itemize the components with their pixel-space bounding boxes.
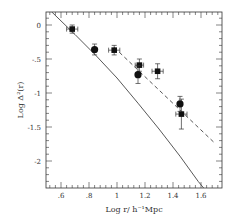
y-tick-label: -1 (34, 90, 41, 98)
x-tick-label: 1 (115, 192, 119, 200)
y-tick-label: -2 (34, 158, 41, 166)
x-tick-label: .8 (86, 192, 93, 200)
plot-frame (46, 12, 222, 188)
dashed-line (114, 47, 213, 142)
y-tick-label: -1.5 (28, 124, 42, 132)
data-point-circle (134, 66, 141, 84)
data-point-square (152, 64, 163, 79)
y-axis-label: Log Δ²(r) (16, 82, 25, 119)
x-tick-label: 1.2 (139, 192, 150, 200)
data-point-circle (91, 44, 98, 55)
x-tick-label: 1.4 (167, 192, 179, 200)
data-point-circle (176, 96, 183, 111)
x-axis-label: Log r/ h⁻¹Mpc (105, 205, 163, 214)
x-tick-label: .6 (58, 192, 65, 200)
x-tick-label: 1.6 (195, 192, 207, 200)
data-point-square (109, 45, 120, 55)
solid-curve (51, 11, 204, 188)
chart: .6.811.21.41.60-.5-1-1.5-2 Log r/ h⁻¹Mpc… (0, 0, 233, 220)
data-point-square (67, 25, 78, 33)
y-tick-label: -.5 (32, 56, 41, 64)
data-point-square (135, 59, 143, 71)
y-tick-label: 0 (37, 22, 41, 30)
